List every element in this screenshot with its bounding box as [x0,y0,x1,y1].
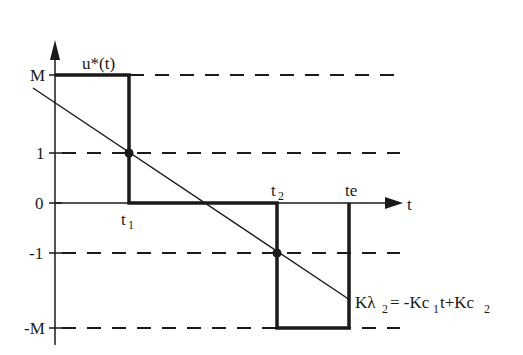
time-label-t2: t 2 [271,181,284,203]
t-axis-label: t [407,195,412,214]
svg-text:t: t [271,181,276,200]
svg-text:= -Kc: = -Kc [390,293,430,312]
y-label-0: 0 [35,194,44,213]
t-axis-arrow-icon [385,197,403,209]
svg-text:2: 2 [278,189,284,203]
y-label-M: M [30,66,45,85]
switching-equation: Kλ 2 = -Kc 1 t+Kc 2 [355,293,490,316]
svg-text:1: 1 [128,218,134,232]
switch-point-t2 [273,249,282,258]
y-label-minus-M: -M [24,319,45,338]
diagram-canvas: M 1 0 -1 -M u*(t) t t 1 t 2 te Kλ 2 = -K… [0,0,523,355]
svg-text:2: 2 [484,302,490,316]
svg-text:Kλ: Kλ [355,293,376,312]
y-axis [49,40,62,345]
time-label-te: te [345,181,357,200]
curve-label-u-star: u*(t) [82,54,115,73]
y-axis-arrow-icon [50,40,60,60]
svg-text:2: 2 [382,302,388,316]
y-label-minus-1: -1 [29,244,43,263]
switch-point-t1 [125,149,134,158]
y-label-1: 1 [36,144,45,163]
svg-text:t+Kc: t+Kc [440,293,475,312]
switching-function-line [33,88,350,300]
svg-text:1: 1 [433,302,439,316]
svg-text:t: t [121,210,126,229]
time-label-t1: t 1 [121,210,134,232]
